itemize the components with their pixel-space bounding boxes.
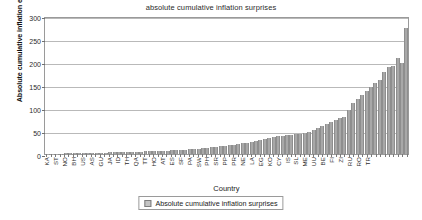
x-tick-mark: [255, 154, 256, 157]
bar: [382, 72, 386, 154]
bar: [214, 147, 218, 154]
x-tick-label: BE: [319, 157, 326, 165]
x-tick-mark: [215, 154, 216, 157]
bar: [387, 67, 391, 154]
bar: [303, 133, 307, 154]
bar: [347, 110, 351, 154]
bar: [400, 63, 404, 154]
x-tick-label: AT: [159, 157, 166, 165]
bar: [373, 83, 377, 154]
x-tick-mark: [113, 154, 114, 157]
x-tick-mark: [229, 154, 230, 157]
x-tick-mark: [344, 154, 345, 157]
x-tick-mark: [247, 154, 248, 157]
x-tick-mark: [206, 154, 207, 157]
x-tick-mark: [291, 154, 292, 157]
x-tick-label: AS: [88, 157, 95, 165]
x-axis-label: Country: [44, 184, 409, 193]
bar: [285, 135, 289, 154]
x-tick-mark: [385, 154, 386, 157]
x-tick-mark: [86, 154, 87, 157]
bar: [281, 136, 285, 154]
x-tick-mark: [104, 154, 105, 157]
bar: [325, 124, 329, 154]
y-tick-label: 200: [15, 61, 45, 68]
bar: [356, 99, 360, 154]
x-tick-mark: [362, 154, 363, 157]
x-tick-label: KA: [43, 157, 50, 165]
x-tick-mark: [393, 154, 394, 157]
x-tick-label: FI: [328, 157, 335, 163]
x-tick-mark: [73, 154, 74, 157]
x-tick-label: PA: [186, 157, 193, 165]
legend-swatch-icon: [144, 200, 151, 207]
y-tick-label: 50: [15, 130, 45, 137]
x-tick-mark: [371, 154, 372, 157]
legend-label: Absolute cumulative inflation surprises: [155, 199, 277, 208]
x-tick-mark: [336, 154, 337, 157]
x-tick-mark: [260, 154, 261, 157]
bar: [396, 58, 400, 154]
x-tick-mark: [282, 154, 283, 157]
x-tick-mark: [166, 154, 167, 157]
bar: [391, 66, 395, 154]
y-tick-label: 250: [15, 38, 45, 45]
chart-title: absolute cumulative inflation surprises: [0, 3, 422, 12]
x-tick-mark: [264, 154, 265, 157]
x-tick-mark: [82, 154, 83, 157]
x-tick-mark: [380, 154, 381, 157]
x-tick-label: QA: [132, 157, 139, 166]
bar: [351, 103, 355, 154]
bar: [258, 140, 262, 154]
x-tick-mark: [407, 154, 408, 157]
bar-series: [45, 18, 408, 154]
x-tick-mark: [331, 154, 332, 157]
bar: [228, 145, 232, 154]
bar: [312, 130, 316, 154]
x-tick-label: RU: [346, 157, 353, 166]
plot-area: 050100150200250300: [44, 17, 409, 155]
x-tick-label: NE: [239, 157, 246, 166]
x-tick-label: GU: [97, 157, 104, 166]
x-tick-mark: [162, 154, 163, 157]
x-tick-mark: [300, 154, 301, 157]
x-tick-mark: [367, 154, 368, 157]
bar: [369, 87, 373, 154]
bar: [210, 147, 214, 154]
x-tick-label: IS: [284, 157, 291, 163]
x-tick-label: SF: [177, 157, 184, 165]
y-tick-label: 0: [15, 153, 45, 160]
x-tick-label: ID: [114, 157, 121, 163]
y-tick-label: 100: [15, 107, 45, 114]
x-tick-label: US: [79, 157, 86, 166]
x-tick-mark: [189, 154, 190, 157]
x-tick-label: SW: [195, 157, 202, 167]
bar: [320, 126, 324, 154]
x-tick-mark: [198, 154, 199, 157]
x-tick-label: TH: [123, 157, 130, 165]
x-tick-label: HO: [150, 157, 157, 166]
x-tick-mark: [149, 154, 150, 157]
x-tick-mark: [233, 154, 234, 157]
x-tick-mark: [171, 154, 172, 157]
x-tick-mark: [77, 154, 78, 157]
x-tick-label: TT: [141, 157, 148, 165]
x-tick-label: CY: [275, 157, 282, 166]
x-tick-mark: [398, 154, 399, 157]
chart-container: absolute cumulative inflation surprises …: [0, 0, 422, 220]
x-tick-mark: [95, 154, 96, 157]
bar: [250, 142, 254, 154]
x-tick-label: TR: [364, 157, 371, 165]
bar: [360, 95, 364, 154]
chart-legend: Absolute cumulative inflation surprises: [138, 196, 283, 210]
x-tick-mark: [251, 154, 252, 157]
x-tick-mark: [117, 154, 118, 157]
x-tick-mark: [68, 154, 69, 157]
bar: [245, 143, 249, 155]
x-tick-label: PR: [230, 157, 237, 166]
x-tick-mark: [295, 154, 296, 157]
x-tick-label: LA: [248, 157, 255, 165]
bar: [298, 134, 302, 154]
x-tick-label: ST: [52, 157, 59, 165]
x-tick-mark: [278, 154, 279, 157]
